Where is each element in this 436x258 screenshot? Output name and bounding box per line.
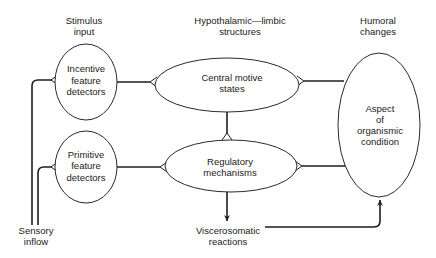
primitive-line1: Primitive [68, 149, 104, 160]
incentive-line2: feature [71, 75, 101, 86]
node-central-motive-states: Central motive states [155, 58, 299, 112]
node-aspect-of-organismic-condition: Aspect of organismic condition [338, 53, 420, 197]
aspect-line1: Aspect [365, 103, 394, 114]
central-line1: Central motive [201, 72, 262, 83]
regulatory-line2: mechanisms [203, 167, 257, 178]
aspect-line4: condition [361, 136, 399, 147]
sensory-line1: Sensory [19, 225, 54, 236]
header-stimulus-line2: input [74, 26, 95, 37]
aspect-line2: of [376, 114, 384, 125]
header-stimulus-input: Stimulus input [66, 15, 103, 37]
label-sensory-inflow: Sensory inflow [19, 225, 54, 247]
node-regulatory-mechanisms: Regulatory mechanisms [165, 140, 297, 192]
node-primitive-feature-detectors: Primitive feature detectors [55, 131, 117, 203]
header-humoral-line2: changes [360, 26, 396, 37]
edge-sensory-to-primitive [38, 167, 52, 225]
node-incentive-feature-detectors: Incentive feature detectors [55, 44, 117, 120]
header-humoral-changes: Humoral changes [360, 15, 396, 37]
viscero-line2: reactions [209, 236, 248, 247]
sensory-line2: inflow [24, 236, 48, 247]
header-hypothalamic-limbic: Hypothalamic—limbic structures [194, 15, 286, 37]
diagram-canvas: Stimulus input Hypothalamic—limbic struc… [0, 0, 436, 258]
incentive-line1: Incentive [67, 63, 105, 74]
label-viscerosomatic-reactions: Viscerosomatic reactions [196, 225, 260, 247]
edge-viscerosomatic-to-aspect [265, 200, 380, 227]
aspect-line3: organismic [357, 125, 403, 136]
incentive-line3: detectors [66, 86, 105, 97]
header-hypothalamic-line1: Hypothalamic—limbic [194, 15, 286, 26]
primitive-line2: feature [71, 160, 101, 171]
header-humoral-line1: Humoral [360, 15, 396, 26]
fork-regulatory-top [222, 133, 232, 140]
primitive-line3: detectors [66, 172, 105, 183]
header-stimulus-line1: Stimulus [66, 15, 103, 26]
viscero-line1: Viscerosomatic [196, 225, 260, 236]
edge-sensory-to-incentive [32, 80, 52, 225]
central-line2: states [219, 83, 245, 94]
header-hypothalamic-line2: structures [219, 26, 261, 37]
regulatory-line1: Regulatory [207, 156, 253, 167]
